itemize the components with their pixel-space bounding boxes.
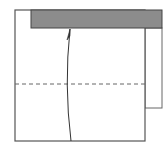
right-flap	[145, 28, 162, 108]
diagram-svg	[0, 0, 167, 157]
gray-folded-band	[31, 10, 162, 28]
main-square	[15, 10, 145, 141]
fold-diagram	[0, 0, 167, 157]
